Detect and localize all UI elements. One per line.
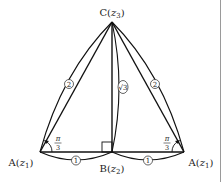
length-label-right-base: 1: [144, 156, 153, 165]
length-label-height: √3: [118, 81, 128, 94]
svg-text:√3: √3: [119, 84, 128, 92]
angle-label-right: π 3: [164, 135, 171, 152]
svg-text:π: π: [55, 135, 61, 143]
point-label-B: B(z2): [100, 163, 125, 176]
angle-label-left: π 3: [55, 135, 62, 152]
length-label-left-side: 2: [65, 80, 74, 90]
point-label-A-left: A(z1): [8, 157, 34, 170]
svg-text:2: 2: [67, 81, 71, 89]
svg-text:1: 1: [146, 157, 150, 165]
svg-text:3: 3: [165, 144, 169, 152]
svg-text:2: 2: [153, 81, 157, 89]
triangle-edges: [40, 22, 184, 152]
svg-text:π: π: [164, 135, 170, 143]
point-label-C: C(z3): [99, 7, 124, 20]
side-AC-left: [40, 22, 112, 152]
right-angle-marker: [102, 142, 112, 152]
point-label-A-right: A(z1): [188, 157, 214, 170]
length-label-left-base: 1: [72, 156, 81, 165]
length-label-right-side: 2: [151, 80, 160, 90]
equilateral-triangle-diagram: 2 2 √3 1 1 π 3 π 3 C(z3) A(z1) B(z2) A(z…: [0, 0, 224, 182]
svg-text:3: 3: [56, 144, 60, 152]
svg-text:1: 1: [74, 157, 78, 165]
